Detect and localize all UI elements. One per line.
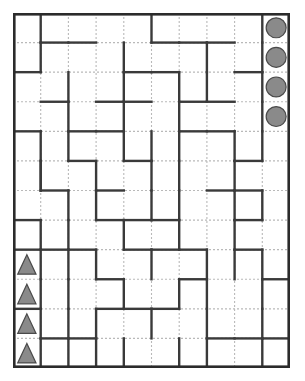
maze-puzzle-root <box>0 0 305 381</box>
circle-token-2[interactable] <box>266 47 286 67</box>
triangle-token-2[interactable] <box>18 284 36 304</box>
triangle-token-1[interactable] <box>18 255 36 275</box>
maze-grid-board[interactable] <box>13 13 290 368</box>
triangle-token-4[interactable] <box>18 343 36 363</box>
maze-grid-svg <box>13 13 290 368</box>
circle-token-3[interactable] <box>266 77 286 97</box>
triangle-token-3[interactable] <box>18 314 36 334</box>
circle-token-1[interactable] <box>266 18 286 38</box>
circle-token-4[interactable] <box>266 107 286 127</box>
